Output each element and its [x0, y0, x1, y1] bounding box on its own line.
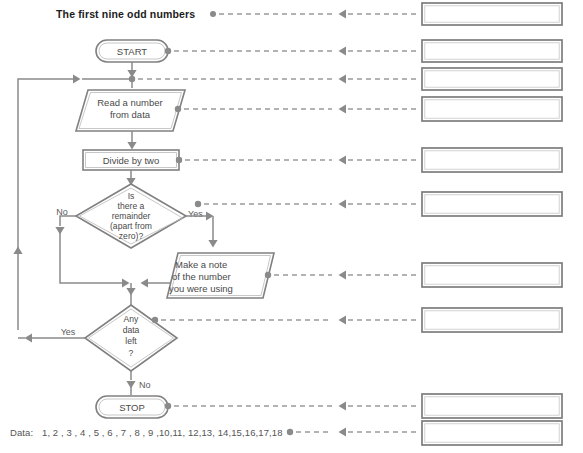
data-line-values: 1, 2 , 3 , 4 , 5 , 6 , 7 , 8 , 9 ,10,11,… [42, 427, 283, 438]
node-anydata-label-4: ? [129, 348, 134, 358]
connector-dot-remainder [195, 201, 201, 207]
node-remainder-decision: Is there a remainder (apart from zero)? [76, 184, 186, 248]
answer-box-6[interactable] [422, 192, 562, 216]
node-make-note: Make a note of the number you were using [167, 253, 274, 298]
node-remainder-label-1: Is [128, 191, 135, 201]
node-anydata-label-2: data [123, 325, 140, 335]
flowchart-worksheet: The first nine odd numbers START Read a … [0, 0, 583, 453]
arrow-read-down [127, 142, 136, 150]
node-divide: Divide by two [83, 150, 179, 170]
node-start-label: START [117, 46, 147, 57]
answer-box-9[interactable] [422, 394, 562, 418]
answer-box-5[interactable] [422, 148, 562, 172]
node-remainder-label-5: zero)? [119, 231, 144, 241]
answer-box-4[interactable] [422, 97, 562, 121]
flowpath-merge-to-anydata [126, 283, 135, 305]
node-start: START [96, 40, 168, 62]
branch-label-anydata-yes: Yes [61, 327, 76, 337]
flowpath-anydata-no [126, 371, 135, 395]
node-read-data-label-2: from data [110, 109, 151, 120]
dashed-arrow-1 [339, 9, 347, 18]
answer-box-3[interactable] [422, 68, 562, 90]
node-stop-label: STOP [119, 402, 145, 413]
dashed-arrow-4 [339, 104, 347, 113]
answer-box-1[interactable] [422, 3, 562, 25]
node-remainder-label-2: there a [118, 201, 145, 211]
dashed-arrow-7 [339, 270, 347, 279]
dashed-arrow-6 [339, 199, 347, 208]
dashed-arrow-3 [339, 74, 347, 83]
connector-dot-make-note [265, 272, 271, 278]
answer-box-7[interactable] [422, 263, 562, 287]
connector-dot-stop [165, 403, 171, 409]
page-title: The first nine odd numbers [56, 8, 195, 20]
node-remainder-label-3: remainder [112, 211, 151, 221]
node-stop: STOP [96, 396, 168, 418]
dashed-arrow-5 [339, 155, 347, 164]
dashed-arrow-2 [339, 46, 347, 55]
node-anydata-label-1: Any [124, 314, 140, 324]
dashed-arrow-8 [339, 315, 347, 324]
node-divide-label: Divide by two [103, 155, 160, 166]
node-make-note-label-1: Make a note [175, 259, 227, 270]
node-anydata-decision: Any data left ? [85, 305, 177, 371]
node-anydata-label-3: left [125, 336, 137, 346]
node-remainder-label-4: (apart from [110, 221, 152, 231]
data-line-label: Data: [10, 427, 33, 438]
answer-box-2[interactable] [422, 40, 562, 62]
connector-dot-start [165, 48, 171, 54]
flowpath-note-to-merge [141, 278, 171, 287]
node-read-data-label-1: Read a number [97, 97, 162, 108]
branch-label-remainder-yes: Yes [188, 209, 203, 219]
connector-dot-divide [176, 157, 182, 163]
answer-box-8[interactable] [422, 308, 562, 332]
node-read-data: Read a number from data [76, 90, 185, 131]
connector-dot-anydata [152, 317, 158, 323]
dashed-arrow-9 [339, 401, 347, 410]
branch-label-anydata-no: No [139, 380, 151, 390]
node-make-note-label-2: of the number [172, 271, 231, 282]
connector-dot-read-data [175, 106, 181, 112]
answer-box-10[interactable] [422, 421, 562, 445]
node-make-note-label-3: you were using [169, 283, 233, 294]
dashed-arrow-10 [339, 427, 347, 436]
connector-dot-data-line [287, 429, 293, 435]
connector-dot-title [210, 11, 216, 17]
